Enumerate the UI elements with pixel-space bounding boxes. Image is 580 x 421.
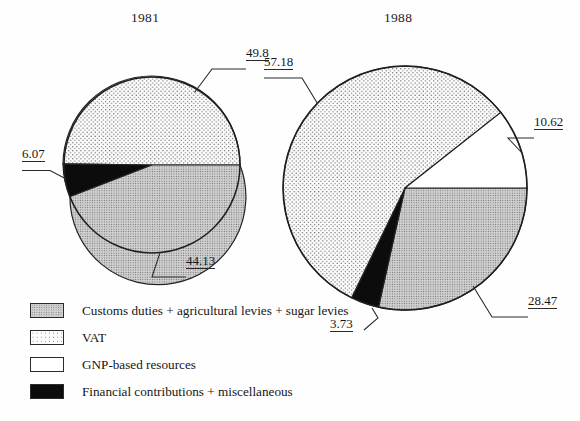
label-1988-gnp: 10.62 [534,114,563,130]
legend-swatch-gnp-icon [30,357,64,372]
legend-swatch-customs-icon [30,303,64,318]
label-1981-customs: 44.13 [186,253,215,269]
legend-item-gnp: GNP-based resources [30,351,450,378]
label-1988-vat: 57.18 [264,54,293,70]
pie-1981-title: 1981 [131,10,159,26]
legend-swatch-financial-icon [30,384,64,399]
leader-1988-vat [264,78,318,104]
legend-item-financial: Financial contributions + miscellaneous [30,378,450,405]
pie-1988-title: 1988 [384,10,412,26]
label-1988-customs: 28.47 [528,293,557,309]
legend-label-vat: VAT [82,330,106,346]
legend-label-customs: Customs duties + agricultural levies + s… [82,303,349,319]
pie-1981-slice-vat [63,76,240,165]
legend-item-customs: Customs duties + agricultural levies + s… [30,297,450,324]
leader-1988-customs [473,286,528,317]
legend-item-vat: VAT [30,324,450,351]
legend: Customs duties + agricultural levies + s… [30,297,450,405]
chart-canvas: 1981 1988 49.8 44.13 6.07 57.18 10.62 28… [0,0,580,421]
legend-swatch-vat-icon [30,330,64,345]
label-1981-financial: 6.07 [22,146,45,162]
leader-1981-vat [195,69,247,93]
legend-label-gnp: GNP-based resources [82,357,196,373]
leader-1981-financial [22,171,66,180]
legend-label-financial: Financial contributions + miscellaneous [82,384,293,400]
pie-chart-figure: 1981 1988 49.8 44.13 6.07 57.18 10.62 28… [0,0,580,421]
